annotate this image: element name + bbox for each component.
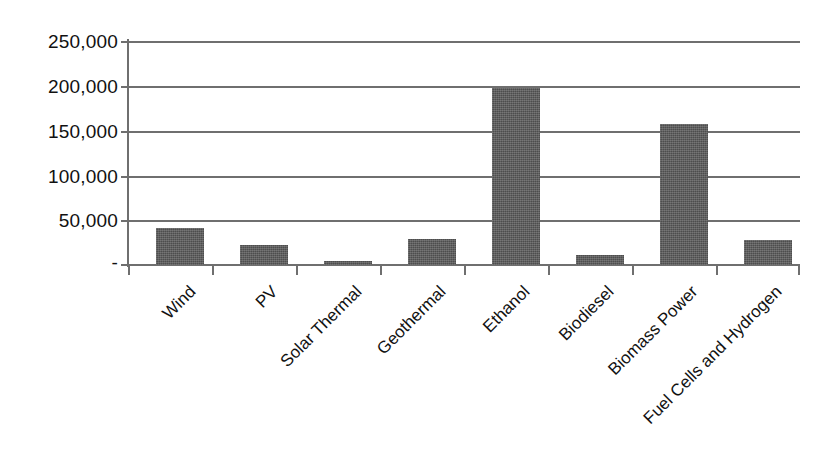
x-axis-label-biodiesel: Biodiesel — [555, 282, 617, 344]
x-axis-label-wind: Wind — [159, 282, 200, 323]
x-axis-label-biomass-power: Biomass Power — [604, 282, 701, 379]
x-axis-label-geothermal: Geothermal — [373, 282, 449, 358]
bar-chart: 250,000 200,000 150,000 100,000 50,000 - — [0, 0, 833, 468]
x-axis-label-fuel-cells-and-hydrogen: Fuel Cells and Hydrogen — [640, 282, 786, 428]
x-axis-label-pv: PV — [252, 282, 281, 311]
x-axis-label-ethanol: Ethanol — [479, 282, 533, 336]
x-axis-category-labels: Wind PV Solar Thermal Geothermal Ethanol… — [0, 0, 833, 468]
x-axis-label-solar-thermal: Solar Thermal — [277, 282, 366, 371]
